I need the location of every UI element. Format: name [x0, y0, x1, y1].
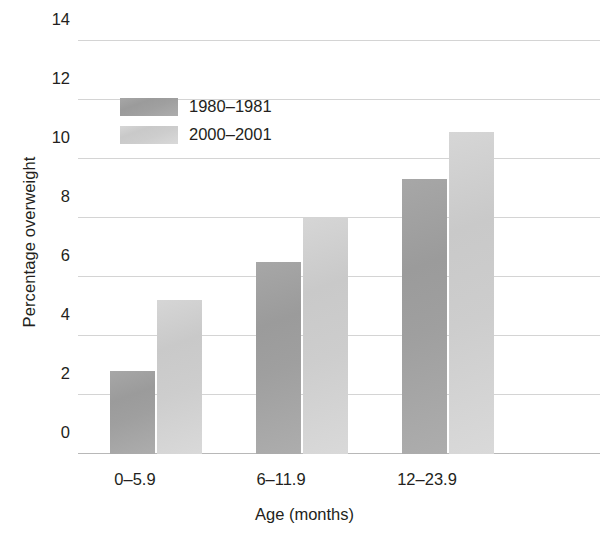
bar-2000-2001-0-5.9 — [157, 300, 202, 454]
bar-1980-1981-0-5.9 — [110, 371, 155, 454]
x-tick-label-12-23.9: 12–23.9 — [347, 470, 507, 489]
y-tick-label-2: 2 — [30, 365, 70, 382]
legend-item-2000-2001: 2000–2001 — [120, 123, 272, 146]
bar-2000-2001-12-23.9 — [449, 132, 494, 454]
y-axis-title: Percentage overweight — [14, 22, 44, 462]
y-tick-label-8: 8 — [30, 188, 70, 205]
x-tick-label-6-11.9: 6–11.9 — [201, 470, 361, 489]
y-tick-label-0: 0 — [30, 424, 70, 441]
legend-swatch-icon-1980-1981 — [120, 98, 178, 116]
legend-item-1980-1981: 1980–1981 — [120, 95, 272, 118]
legend-label-1980-1981: 1980–1981 — [189, 97, 272, 116]
bar-chart: Percentage overweight 14 12 10 8 6 4 2 0… — [0, 0, 609, 548]
bar-2000-2001-6-11.9 — [303, 218, 348, 454]
y-tick-label-10: 10 — [30, 129, 70, 146]
legend-swatch-icon-2000-2001 — [120, 126, 178, 144]
x-axis-title: Age (months) — [0, 505, 609, 524]
legend: 1980–1981 2000–2001 — [120, 95, 272, 151]
y-tick-label-14: 14 — [30, 11, 70, 28]
y-tick-label-6: 6 — [30, 247, 70, 264]
x-tick-label-0-5.9: 0–5.9 — [55, 470, 215, 489]
y-tick-label-4: 4 — [30, 306, 70, 323]
bar-1980-1981-6-11.9 — [256, 262, 301, 454]
y-tick-label-12: 12 — [30, 70, 70, 87]
legend-label-2000-2001: 2000–2001 — [189, 125, 272, 144]
bar-1980-1981-12-23.9 — [402, 179, 447, 454]
